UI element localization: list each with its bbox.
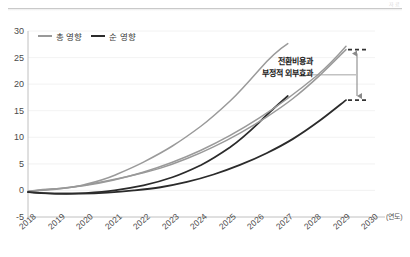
chart-page: 자료 30 25 20 15 10 5 0 -5 (0, 0, 410, 257)
legend-swatch-net (91, 35, 105, 37)
chart-legend: 총 영향 순 영향 (38, 30, 136, 42)
annotation-line-2: 부정적 외부효과 (233, 68, 313, 80)
legend-swatch-total (38, 35, 52, 37)
line-chart: 30 25 20 15 10 5 0 -5 (0, 0, 410, 257)
annotation-text: 전환비용과 부정적 외부효과 (233, 56, 313, 79)
legend-label-total: 총 영향 (56, 30, 82, 42)
x-axis-unit-label: (연도) (386, 211, 403, 221)
legend-label-net: 순 영향 (109, 30, 135, 42)
legend-item-net[interactable]: 순 영향 (91, 30, 135, 42)
annotation-line-1: 전환비용과 (233, 56, 313, 68)
legend-item-total[interactable]: 총 영향 (38, 30, 82, 42)
